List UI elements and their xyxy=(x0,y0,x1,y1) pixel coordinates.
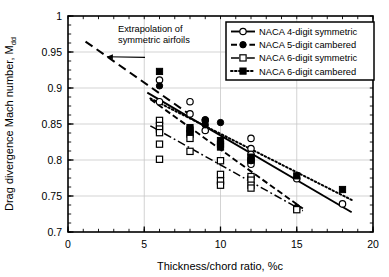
data-point xyxy=(156,141,162,147)
data-point xyxy=(339,186,345,192)
data-point xyxy=(294,173,300,179)
data-point xyxy=(156,83,162,89)
data-point xyxy=(156,98,162,104)
data-point xyxy=(156,156,162,162)
chart-legend: NACA 4-digit symmetricNACA 5-digit cambe… xyxy=(226,22,374,80)
x-axis-label: Thickness/chord ratio, %c xyxy=(157,260,283,272)
x-tick-label: 20 xyxy=(367,238,379,250)
data-point xyxy=(217,182,223,188)
data-point xyxy=(217,119,223,125)
drag-divergence-scatter-chart: 05101520 0.70.750.80.850.90.951 Thicknes… xyxy=(0,0,389,277)
chart-figure: 05101520 0.70.750.80.850.90.951 Thicknes… xyxy=(0,0,389,277)
legend-marker xyxy=(240,68,246,74)
data-point xyxy=(248,185,254,191)
data-point xyxy=(187,148,193,154)
y-tick-label: 0.8 xyxy=(47,154,62,166)
data-point xyxy=(217,171,223,177)
data-point xyxy=(294,207,300,213)
y-tick-label: 1 xyxy=(56,10,62,22)
data-point xyxy=(217,144,223,150)
annotation-line-2: symmetric airfoils xyxy=(118,35,190,45)
legend-marker xyxy=(240,55,246,61)
legend-marker xyxy=(240,42,246,48)
data-point xyxy=(187,111,193,117)
legend-label: NACA 6-digit cambered xyxy=(259,67,356,77)
x-tick-label: 5 xyxy=(141,238,147,250)
x-tick-label: 10 xyxy=(215,238,227,250)
y-tick-label: 0.95 xyxy=(42,46,63,58)
data-point xyxy=(339,201,345,207)
y-tick-label: 0.85 xyxy=(42,118,63,130)
extrapolation-annotation: Extrapolation of symmetric airfoils xyxy=(118,24,190,45)
legend-marker xyxy=(240,28,246,34)
x-tick-label: 15 xyxy=(291,238,303,250)
data-point xyxy=(217,158,223,164)
data-point xyxy=(202,122,208,128)
data-point xyxy=(187,135,193,141)
data-point xyxy=(187,129,193,135)
y-tick-label: 0.7 xyxy=(47,226,62,238)
legend-label: NACA 5-digit cambered xyxy=(259,40,356,50)
legend-label: NACA 4-digit symmetric xyxy=(259,27,358,37)
data-point xyxy=(156,130,162,136)
data-point xyxy=(156,68,162,74)
annotation-line-1: Extrapolation of xyxy=(118,24,183,34)
data-point xyxy=(248,135,254,141)
data-point xyxy=(187,98,193,104)
y-tick-label: 0.75 xyxy=(42,190,63,202)
x-tick-label: 0 xyxy=(65,238,71,250)
y-tick-label: 0.9 xyxy=(47,82,62,94)
data-point xyxy=(248,157,254,163)
legend-label: NACA 6-digit symmetric xyxy=(259,53,358,63)
